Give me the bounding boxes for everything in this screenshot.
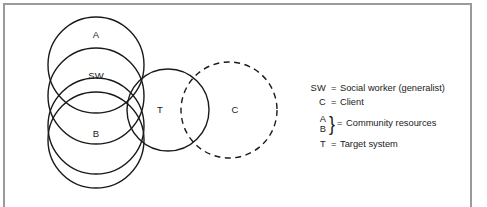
legend-entry-sw: SW = Social worker (generalist)	[300, 82, 480, 96]
venn-diagram: A SW B T C	[0, 0, 300, 207]
circle-label-b: B	[93, 128, 99, 139]
legend-symbol-t: T	[300, 140, 331, 149]
legend-equals-c: =	[331, 98, 340, 107]
legend-entry-c: C = Client	[300, 96, 480, 110]
legend-equals-sw: =	[331, 84, 340, 93]
legend: SW = Social worker (generalist) C = Clie…	[300, 82, 480, 152]
legend-entry-community-resources: A B } = Community resources	[300, 110, 480, 138]
legend-description-t: Target system	[340, 140, 398, 149]
legend-brace-icon: }	[328, 113, 337, 134]
legend-description-sw: Social worker (generalist)	[340, 84, 445, 93]
circle-label-a: A	[93, 29, 100, 40]
circle-label-t: T	[157, 104, 163, 115]
legend-equals-community: =	[337, 119, 346, 128]
legend-symbol-b: B	[320, 124, 326, 134]
legend-entry-t: T = Target system	[300, 138, 480, 152]
legend-symbol-a: A	[320, 114, 326, 124]
legend-symbol-sw: SW	[300, 84, 331, 93]
circle-t	[127, 69, 209, 151]
circle-c	[181, 62, 277, 158]
legend-description-c: Client	[340, 98, 364, 107]
legend-symbol-c: C	[300, 98, 331, 107]
legend-equals-t: =	[331, 140, 340, 149]
venn-diagram-svg: A SW B T C	[0, 0, 300, 207]
legend-symbol-group-ab: A B	[300, 114, 327, 134]
legend-description-community: Community resources	[346, 119, 436, 128]
circle-label-c: C	[232, 104, 239, 115]
circle-label-sw: SW	[88, 70, 103, 81]
